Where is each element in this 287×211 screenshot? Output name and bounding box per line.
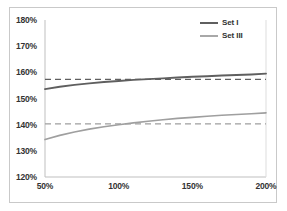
- x-tick-label: 150%: [172, 181, 212, 191]
- y-tick-label: 140%: [16, 120, 37, 130]
- x-tick-label: 100%: [99, 181, 139, 191]
- plot-area: [0, 0, 287, 211]
- y-tick-label: 150%: [16, 94, 37, 104]
- y-tick-label: 130%: [16, 146, 37, 156]
- data-series-group: [45, 74, 266, 140]
- legend-label-set-1: Set I: [222, 18, 238, 27]
- x-tick-label: 200%: [246, 181, 286, 191]
- legend-swatch-group: [200, 23, 218, 36]
- y-tick-label: 170%: [16, 41, 37, 51]
- legend-label-set-3: Set III: [222, 31, 243, 40]
- chart-figure: 120%130%140%150%160%170%180% 50%100%150%…: [0, 0, 287, 211]
- y-tick-label: 180%: [16, 15, 37, 25]
- axes-lines: [45, 20, 266, 177]
- x-tick-label: 50%: [25, 181, 65, 191]
- series-line-set-1: [45, 74, 266, 89]
- y-tick-label: 160%: [16, 67, 37, 77]
- series-line-set-3: [45, 113, 266, 140]
